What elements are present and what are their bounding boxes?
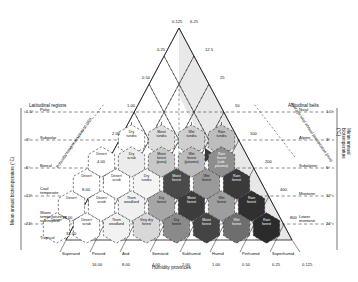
pet-tick-label: 0.25 [157,48,165,52]
latitudinal-region-name: Boreal [40,164,52,168]
pet-tick-label: 0.125 [172,20,182,24]
altitudinal-belt-name: Alpine [299,136,310,140]
humidity-province-value: 1.00 [212,263,220,267]
humidity-province-value: 2.00 [182,263,190,267]
humidity-province-name: Subhumid [182,252,200,256]
altitudinal-belt-temp: 3° [326,138,330,142]
latitudinal-region-temp: 3° [26,138,30,142]
precipitation-tick-label: 25 [220,76,225,80]
humidity-province-name: Arid [122,252,129,256]
latitudinal-region-name: Polar [40,108,50,112]
humidity-province-name: Semiarid [152,252,168,256]
altitudinal-belt-temp: 24° [326,222,332,226]
latitudinal-region-temp: 24° [26,222,32,226]
humidity-province-value: 4.00 [152,263,160,267]
latitudinal-region-name: Tropical [40,236,54,240]
humidity-province-name: Humid [212,252,224,256]
precipitation-tick-label: 6.25 [190,20,198,24]
life-zone-hexagons [43,125,279,243]
altitudinal-belt-temp: 12° [326,194,332,198]
pet-tick-label: 1.00 [127,104,135,108]
right-axis-title: Mean annual biotemperature (°C) [336,128,351,159]
humidity-province-name: Perhumid [242,252,260,256]
humidity-province-value: 0.50 [242,263,250,267]
holdridge-diagram: Mean annual biotemperature (°C) Mean ann… [0,0,358,282]
humidity-province-name: Perarid [92,252,105,256]
altitudinal-belt-temp: 1.5° [326,110,333,114]
pet-tick-label: 0.50 [142,76,150,80]
precipitation-tick-label: 50 [235,104,240,108]
humidity-province-value: 8.00 [122,263,130,267]
precipitation-tick-label: 400 [280,188,287,192]
pet-tick-label: 2.00 [112,132,120,136]
humidity-province-value: 16.00 [92,263,102,267]
altitudinal-belt-name: Subalpine [299,164,317,168]
pet-tick-label: 32.00 [66,232,76,236]
latitudinal-region-name: Subpolar [40,136,56,140]
humidity-province-value: 0.125 [302,263,312,267]
latitudinal-region-temp: 6° [26,166,30,170]
pet-tick-label: 16.00 [62,216,72,220]
precipitation-tick-label: 800 [290,216,297,220]
altitudinal-belt-name: Lower montane [299,215,315,223]
pet-tick-label: 8.00 [82,188,90,192]
precipitation-tick-label: 100 [250,132,257,136]
left-axis-title: Mean annual biotemperature (°C) [10,157,15,225]
precipitation-tick-label: 200 [265,160,272,164]
altitudinal-belt-temp: 6° [326,166,330,170]
latitudinal-region-name: Cool temperate [40,187,58,195]
humidity-province-name: Superarid [62,252,80,256]
altitudinal-belt-name: Nival [299,108,308,112]
humidity-province-value: 0.25 [272,263,280,267]
altitudinal-belt-name: Montane [299,192,315,196]
latitudinal-region-temp: 1.5° [26,110,33,114]
pet-tick-label: 4.00 [97,160,105,164]
humidity-province-name: Superhumid [272,252,294,256]
latitudinal-region-temp: 12° [26,194,32,198]
precipitation-tick-label: 12.5 [205,48,213,52]
